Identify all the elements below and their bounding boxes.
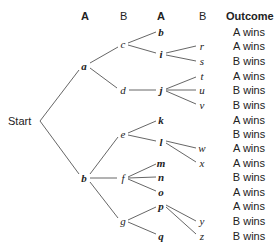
tree-node-e: e <box>121 128 126 140</box>
outcome-row: A wins <box>224 40 274 52</box>
outcome-row: B wins <box>224 55 274 67</box>
outcome-row: A wins <box>224 157 274 169</box>
outcome-row: B wins <box>224 230 274 242</box>
tree-node-g: g <box>120 215 126 227</box>
start-node: Start <box>8 115 31 127</box>
header-player-a-2: A <box>157 10 165 22</box>
outcome-row: B wins <box>224 215 274 227</box>
outcome-row: B wins <box>224 84 274 96</box>
outcome-row: A wins <box>224 200 274 212</box>
tree-node-n: n <box>158 171 164 183</box>
tree-node-f: f <box>121 172 124 184</box>
header-player-b-1: B <box>120 10 127 22</box>
outcome-row: B wins <box>224 128 274 140</box>
tree-node-a: a <box>81 60 87 72</box>
tree-node-b1: b <box>81 172 87 184</box>
tree-node-v: v <box>200 99 205 111</box>
tree-node-j: j <box>159 84 162 96</box>
tree-node-c: c <box>121 38 126 50</box>
tree-node-m: m <box>157 157 166 169</box>
tree-node-d: d <box>120 84 126 96</box>
tree-node-t: t <box>200 70 203 82</box>
tree-node-i: i <box>159 48 162 60</box>
tree-node-s: s <box>200 55 204 67</box>
outcome-row: A wins <box>224 142 274 154</box>
header-player-a-1: A <box>81 10 89 22</box>
tree-node-q: q <box>158 230 164 242</box>
outcome-row: A wins <box>224 186 274 198</box>
outcome-row: B wins <box>224 171 274 183</box>
tree-node-u: u <box>199 84 205 96</box>
tree-node-w: w <box>198 142 205 154</box>
tree-node-l: l <box>159 136 162 148</box>
outcome-row: A wins <box>224 26 274 38</box>
tree-node-r: r <box>200 40 204 52</box>
outcome-row: A wins <box>224 70 274 82</box>
tree-node-k: k <box>158 114 164 126</box>
tree-node-y: y <box>200 215 205 227</box>
tree-node-b2: b <box>158 26 164 38</box>
header-outcome: Outcome <box>226 10 274 22</box>
header-player-b-2: B <box>199 10 206 22</box>
outcome-row: B wins <box>224 99 274 111</box>
tree-node-p: p <box>158 200 164 212</box>
outcome-row: A wins <box>224 114 274 126</box>
tree-node-z: z <box>200 230 204 242</box>
tree-node-o: o <box>158 186 164 198</box>
tree-node-x: x <box>200 157 205 169</box>
